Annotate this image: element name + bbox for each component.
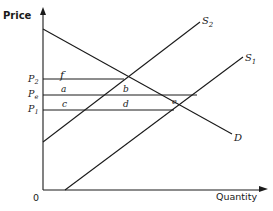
y-axis-arrow-icon (40, 7, 46, 15)
region-c-label: c (62, 99, 67, 109)
p1-sub: 1 (34, 108, 38, 116)
supply-1-label: S1 (245, 52, 256, 66)
axes (43, 12, 262, 190)
p2-sub: 2 (33, 78, 38, 86)
region-e-label: e (172, 97, 177, 106)
supply-curve-1 (65, 57, 243, 190)
region-d-label: d (123, 99, 129, 109)
region-f-label: f (59, 69, 66, 82)
x-axis-arrow-icon (259, 186, 268, 192)
supply-2-label: S2 (202, 15, 214, 29)
pe-sub: e (34, 93, 38, 101)
curves (43, 22, 243, 190)
supply-demand-diagram: Price Quantity 0 D S2 S1 P2 Pe P1 f a b … (0, 0, 273, 211)
y-axis-label: Price (3, 10, 32, 21)
supply-2-sub: 2 (208, 21, 214, 29)
origin-label: 0 (33, 192, 39, 203)
demand-label-text: D (233, 132, 242, 143)
pe-label: Pe (27, 88, 38, 101)
demand-label: D (233, 132, 242, 143)
supply-curve-2 (43, 22, 200, 142)
demand-curve (43, 29, 232, 134)
x-axis-label: Quantity (216, 191, 257, 202)
p1-label: P1 (27, 103, 39, 116)
p2-label: P2 (27, 73, 39, 86)
region-a-label: a (61, 84, 66, 94)
supply-1-sub: 1 (252, 58, 256, 66)
region-b-label: b (123, 84, 129, 94)
